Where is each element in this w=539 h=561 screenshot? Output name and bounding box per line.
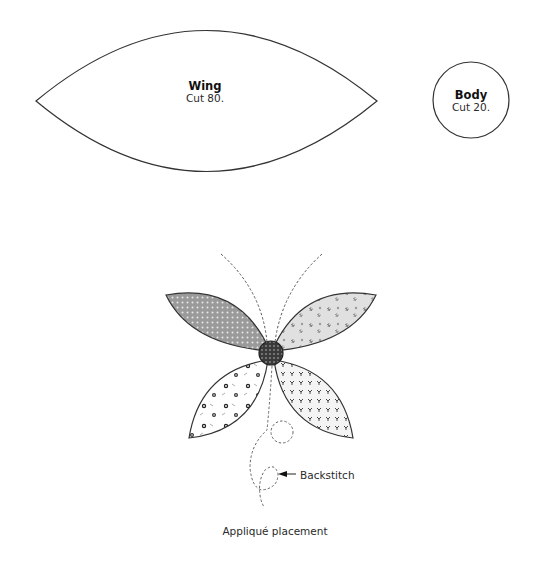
butterfly-body [259,341,283,365]
upper-left-wing [166,293,270,351]
applique-diagram [0,0,539,561]
wing-title: Wing [165,80,245,92]
arrow-icon [278,471,287,477]
wing-template-label: Wing Cut 80. [165,80,245,104]
wing-instruction: Cut 80. [165,92,245,104]
lower-left-wing [189,360,268,438]
backstitch-callout-label: Backstitch [300,469,355,481]
upper-right-wing [272,293,376,351]
body-instruction: Cut 20. [431,101,511,113]
placement-caption: Appliqué placement [190,525,360,537]
backstitch-loop [271,421,293,443]
body-title: Body [431,89,511,101]
body-template-label: Body Cut 20. [431,89,511,113]
lower-right-wing [274,360,353,438]
